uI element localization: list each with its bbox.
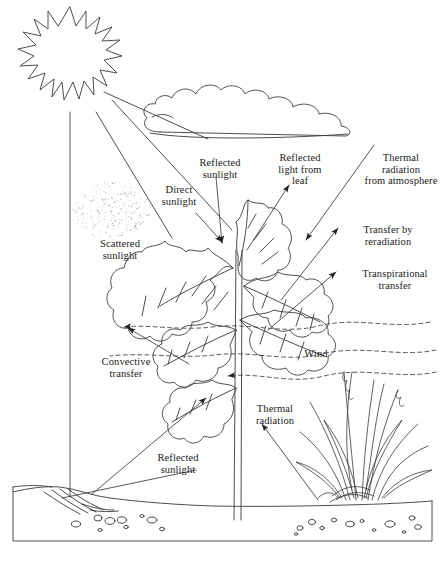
arrow-reflected-light-leaf [247, 185, 289, 250]
label-thermal-radiation-atm: Thermal radiation from atmosphere [357, 152, 445, 187]
label-transpirational: Transpirational transfer [348, 268, 442, 291]
label-wind: Wind [296, 348, 336, 360]
flow-arrows [62, 145, 374, 500]
label-thermal-radiation: Thermal radiation [243, 403, 307, 426]
grass-clump [296, 372, 432, 502]
label-transfer-reradiation: Transfer by reradiation [350, 224, 426, 247]
arrow-reflected-sunlight-top [216, 177, 222, 243]
label-scattered-sunlight: Scattered sunlight [85, 238, 155, 261]
label-reflected-sunlight-top: Reflected sunlight [189, 157, 251, 180]
cloud-icon [144, 85, 350, 138]
label-reflected-light-leaf: Reflected light from leaf [267, 152, 333, 187]
arrow-transfer-reradiation [281, 228, 338, 300]
label-convective-transfer: Convective transfer [89, 356, 163, 379]
wind-line-1 [124, 322, 430, 329]
scattered-light-stipple [72, 182, 150, 240]
arrow-transpirational [268, 272, 336, 330]
arrow-thermal-radiation [262, 424, 318, 500]
arrow-direct-sunlight [196, 213, 222, 242]
sun-icon [18, 7, 122, 100]
wind-line-3 [228, 372, 436, 379]
label-direct-sunlight: Direct sunlight [148, 184, 210, 207]
energy-exchange-diagram: Direct sunlightScattered sunlightReflect… [0, 0, 445, 562]
label-reflected-sunlight-bot: Reflected sunlight [146, 452, 210, 475]
